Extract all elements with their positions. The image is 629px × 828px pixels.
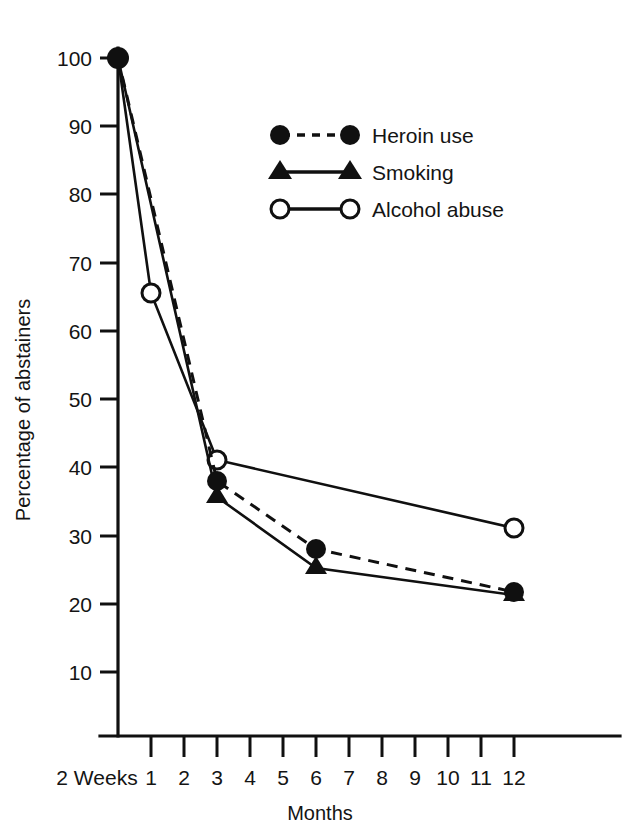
chart-legend: Heroin use Smoking Alcohol abuse bbox=[268, 124, 504, 221]
legend-marker-open-circle-alcohol bbox=[271, 200, 289, 218]
y-tick-label-50: 50 bbox=[69, 388, 92, 411]
y-tick-label-40: 40 bbox=[69, 456, 92, 479]
x-tick-label-9: 9 bbox=[409, 766, 421, 789]
x-tick-label-1: 1 bbox=[145, 766, 157, 789]
heroin-use-point-month-3 bbox=[207, 471, 227, 491]
x-axis-tick-labels: 2 Weeks 1 2 3 4 5 6 7 8 9 10 11 12 bbox=[56, 766, 525, 789]
chart-figure: 100 90 80 70 60 50 40 30 20 10 Percentag… bbox=[0, 0, 629, 828]
heroin-use-point-month-6 bbox=[306, 539, 326, 559]
x-tick-label-7: 7 bbox=[343, 766, 355, 789]
y-tick-label-20: 20 bbox=[69, 593, 92, 616]
y-axis-title: Percentage of abstainers bbox=[12, 299, 34, 521]
legend-label-alcohol-abuse: Alcohol abuse bbox=[372, 198, 504, 221]
x-tick-label-2: 2 bbox=[178, 766, 190, 789]
legend-marker-filled-circle-heroin bbox=[270, 125, 290, 145]
x-tick-label-3: 3 bbox=[211, 766, 223, 789]
x-axis-title: Months bbox=[287, 802, 353, 824]
x-axis-ticks bbox=[151, 736, 514, 757]
legend-item-heroin-use: Heroin use bbox=[270, 124, 474, 147]
alcohol-abuse-point-month-12 bbox=[505, 519, 523, 537]
y-tick-label-100: 100 bbox=[57, 47, 92, 70]
x-tick-label-8: 8 bbox=[376, 766, 388, 789]
x-tick-label-4: 4 bbox=[244, 766, 256, 789]
heroin-use-point-2-weeks bbox=[107, 47, 129, 69]
y-axis-tick-labels: 100 90 80 70 60 50 40 30 20 10 bbox=[57, 47, 92, 684]
legend-item-smoking: Smoking bbox=[268, 160, 454, 184]
y-axis: 100 90 80 70 60 50 40 30 20 10 Percentag… bbox=[12, 47, 118, 736]
legend-label-smoking: Smoking bbox=[372, 161, 454, 184]
legend-marker-filled-triangle-smoking bbox=[268, 160, 292, 179]
legend-item-alcohol-abuse: Alcohol abuse bbox=[271, 198, 504, 221]
legend-marker-filled-triangle-smoking-end bbox=[338, 160, 362, 179]
x-axis: 2 Weeks 1 2 3 4 5 6 7 8 9 10 11 12 Month… bbox=[56, 736, 620, 824]
y-tick-label-30: 30 bbox=[69, 525, 92, 548]
x-tick-label-5: 5 bbox=[277, 766, 289, 789]
x-tick-label-10: 10 bbox=[436, 766, 459, 789]
y-tick-label-90: 90 bbox=[69, 115, 92, 138]
heroin-use-point-month-12 bbox=[504, 582, 524, 602]
x-tick-label-12: 12 bbox=[502, 766, 525, 789]
legend-marker-filled-circle-heroin-end bbox=[340, 125, 360, 145]
y-axis-ticks bbox=[100, 58, 118, 672]
x-tick-label-2-weeks: 2 Weeks bbox=[56, 766, 137, 789]
legend-label-heroin-use: Heroin use bbox=[372, 124, 474, 147]
y-tick-label-60: 60 bbox=[69, 320, 92, 343]
legend-marker-open-circle-alcohol-end bbox=[341, 200, 359, 218]
x-tick-label-6: 6 bbox=[310, 766, 322, 789]
x-tick-label-11: 11 bbox=[470, 766, 492, 789]
y-tick-label-80: 80 bbox=[69, 183, 92, 206]
y-tick-label-10: 10 bbox=[69, 661, 92, 684]
alcohol-abuse-point-month-1 bbox=[142, 284, 160, 302]
y-tick-label-70: 70 bbox=[69, 252, 92, 275]
line-chart-canvas: 100 90 80 70 60 50 40 30 20 10 Percentag… bbox=[0, 0, 629, 828]
